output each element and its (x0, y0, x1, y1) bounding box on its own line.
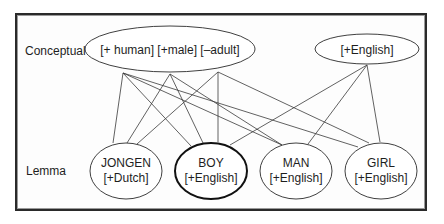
lemma-feature: [+Dutch] (101, 171, 151, 186)
level-label-conceptual: Conceptual (25, 44, 86, 58)
level-label-lemma: Lemma (26, 164, 66, 178)
line-english-boy (230, 65, 367, 145)
lemma-word: JONGEN (101, 156, 151, 171)
lemma-word: MAN (269, 156, 322, 171)
lemma-node-man: MAN [+English] (269, 156, 322, 186)
lemma-feature: [+English] (184, 171, 237, 186)
lemma-word: GIRL (354, 156, 407, 171)
diagram-canvas (0, 0, 444, 224)
line-human-jongen (113, 73, 123, 143)
connection-lines (113, 65, 380, 147)
lemma-feature: [+English] (269, 171, 322, 186)
lemma-node-girl: GIRL [+English] (354, 156, 407, 186)
lemma-word: BOY (184, 156, 237, 171)
lemma-feature: [+English] (354, 171, 407, 186)
lemma-node-jongen: JONGEN [+Dutch] (101, 156, 151, 186)
line-english-girl (367, 65, 380, 142)
lemma-node-boy: BOY [+English] (184, 156, 237, 186)
conceptual-features-text: [+ human] [+male] [–adult] (100, 43, 239, 58)
line-human-girl (123, 73, 358, 147)
conceptual-english-text: [+English] (340, 43, 393, 58)
line-human-man (123, 73, 282, 145)
line-english-man (308, 65, 367, 144)
